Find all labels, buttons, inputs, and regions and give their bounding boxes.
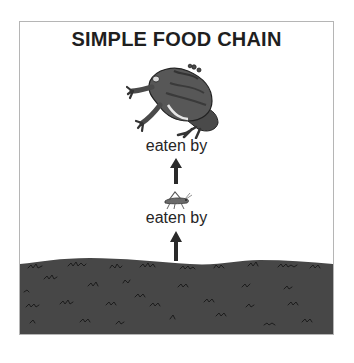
frog-icon	[126, 63, 224, 139]
diagram-title: SIMPLE FOOD CHAIN	[20, 28, 333, 51]
up-arrow-icon	[169, 158, 183, 184]
eaten-by-label-lower: eaten by	[20, 209, 333, 227]
grass-ground-icon	[20, 256, 333, 334]
diagram-frame: SIMPLE FOOD CHAIN eaten by	[19, 21, 334, 335]
grasshopper-icon	[161, 188, 193, 210]
eaten-by-label-upper: eaten by	[20, 137, 333, 155]
